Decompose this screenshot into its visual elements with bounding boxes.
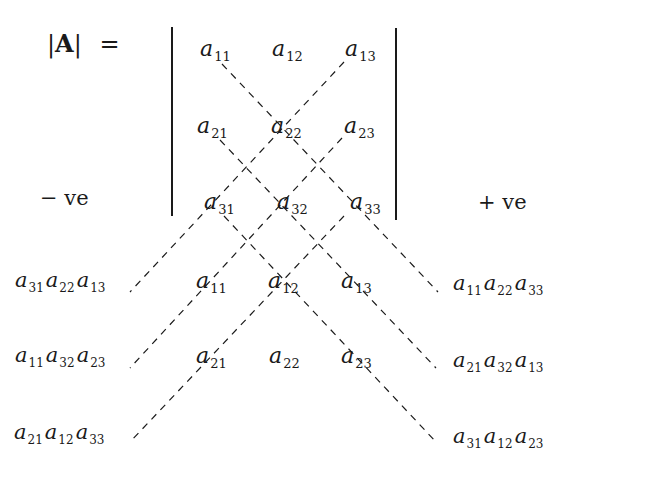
determinant-bar-right bbox=[395, 28, 397, 220]
matrix-element: a11 bbox=[200, 38, 231, 63]
negative-diagonal-1 bbox=[130, 62, 344, 292]
positive-diagonal-1 bbox=[222, 64, 438, 292]
repeated-element: a21 bbox=[196, 345, 227, 370]
repeated-element: a22 bbox=[269, 345, 300, 370]
negative-product: a11a32a23 bbox=[15, 345, 107, 369]
abs-bar-left: | bbox=[47, 30, 55, 58]
repeated-element: a23 bbox=[341, 345, 372, 370]
matrix-element: a31 bbox=[204, 191, 235, 216]
repeated-element: a13 bbox=[341, 270, 372, 295]
determinant-bar-left bbox=[171, 27, 173, 216]
matrix-element: a32 bbox=[277, 191, 308, 216]
matrix-element: a13 bbox=[345, 38, 376, 63]
negative-label: − ve bbox=[40, 188, 89, 209]
negative-product: a21a12a33 bbox=[14, 422, 106, 446]
matrix-element: a33 bbox=[350, 191, 381, 216]
positive-diagonal-3 bbox=[224, 216, 436, 442]
positive-product: a21a32a13 bbox=[453, 350, 545, 374]
equals-sign: = bbox=[99, 30, 119, 58]
determinant-label: |A| = bbox=[47, 32, 120, 56]
positive-diagonal-2 bbox=[220, 140, 436, 368]
positive-label: + ve bbox=[478, 192, 527, 213]
matrix-element: a23 bbox=[344, 115, 375, 140]
positive-product: a11a22a33 bbox=[453, 273, 545, 297]
negative-product: a31a22a13 bbox=[15, 270, 107, 294]
negative-diagonal-3 bbox=[130, 216, 344, 442]
repeated-element: a12 bbox=[268, 270, 299, 295]
matrix-element: a12 bbox=[272, 38, 303, 63]
matrix-symbol: A bbox=[55, 29, 74, 58]
negative-diagonal-2 bbox=[130, 138, 342, 368]
matrix-element: a21 bbox=[197, 115, 228, 140]
positive-product: a31a12a23 bbox=[453, 426, 545, 450]
abs-bar-right: | bbox=[74, 30, 82, 58]
matrix-element: a22 bbox=[271, 115, 302, 140]
repeated-element: a11 bbox=[196, 270, 227, 295]
